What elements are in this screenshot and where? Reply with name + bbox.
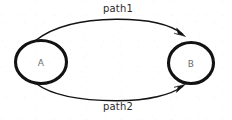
diagram-canvas: A B path1 path2 bbox=[0, 0, 232, 120]
node-a-label: A bbox=[38, 58, 45, 68]
edge-path2[interactable] bbox=[36, 84, 186, 101]
edge-path1-label: path1 bbox=[2, 3, 232, 14]
edge-path2-label: path2 bbox=[2, 101, 232, 112]
edge-path1[interactable] bbox=[36, 19, 186, 40]
edge-path1-curve bbox=[36, 19, 183, 40]
node-b-label: B bbox=[188, 59, 194, 69]
node-b[interactable]: B bbox=[169, 43, 214, 84]
node-a[interactable]: A bbox=[16, 41, 67, 84]
edge-path2-curve bbox=[36, 84, 183, 101]
